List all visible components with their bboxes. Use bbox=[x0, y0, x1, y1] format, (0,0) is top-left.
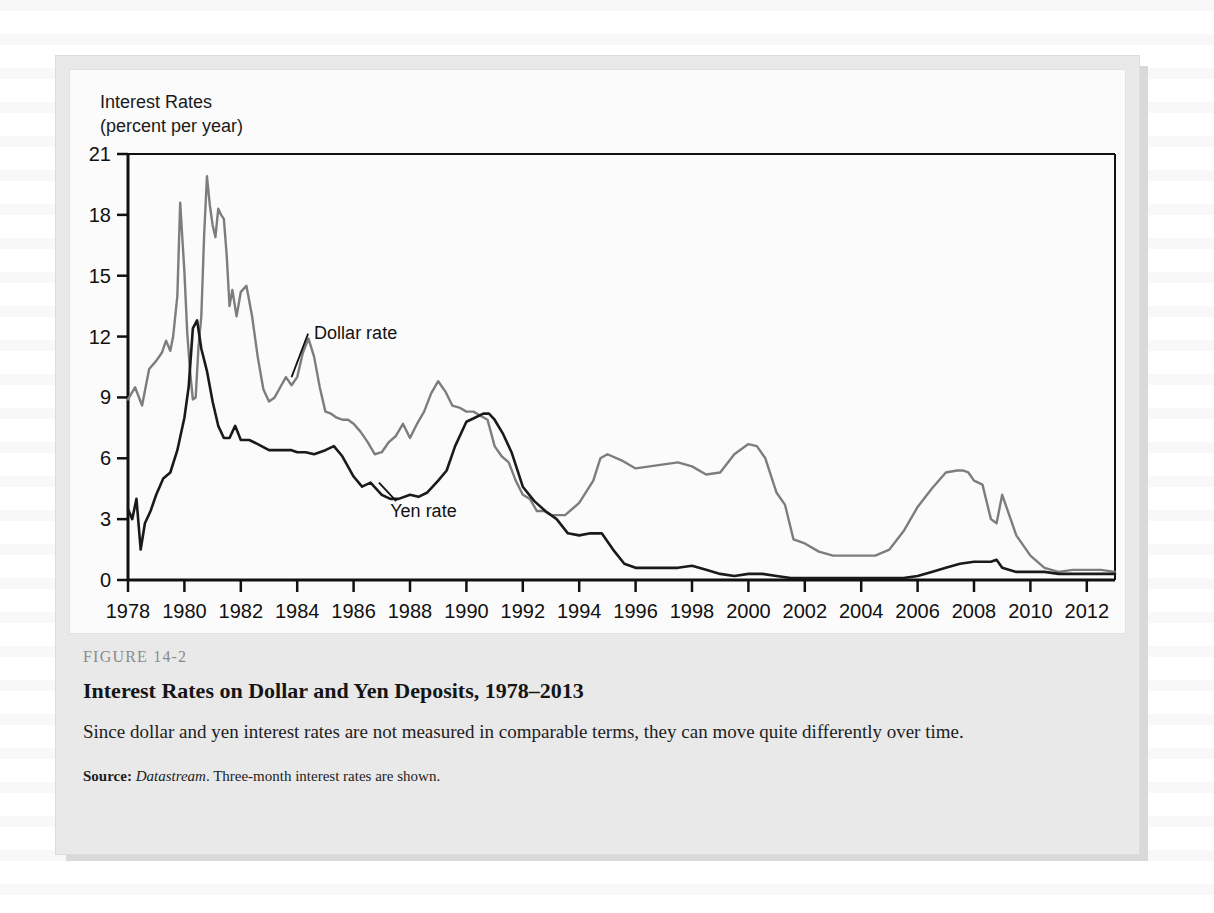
y-tick-label: 9 bbox=[100, 386, 111, 408]
y-tick-label: 3 bbox=[100, 508, 111, 530]
x-tick-label: 1992 bbox=[501, 600, 546, 622]
x-tick-label: 1998 bbox=[670, 600, 715, 622]
x-tick-label: 1978 bbox=[106, 600, 151, 622]
chart-card: Interest Rates(percent per year) 0369121… bbox=[69, 69, 1126, 634]
x-tick-label: 1986 bbox=[331, 600, 376, 622]
x-tick-label: 2012 bbox=[1065, 600, 1110, 622]
line-chart: 0369121518211978198019821984198619881990… bbox=[70, 70, 1127, 635]
y-tick-label: 15 bbox=[89, 265, 111, 287]
x-tick-label: 1982 bbox=[219, 600, 263, 622]
y-tick-label: 12 bbox=[89, 326, 111, 348]
x-tick-label: 2010 bbox=[1008, 600, 1053, 622]
figure-source-prefix: Source: bbox=[83, 768, 132, 784]
figure-description: Since dollar and yen interest rates are … bbox=[83, 718, 1098, 746]
x-tick-label: 1996 bbox=[613, 600, 658, 622]
x-tick-label: 2008 bbox=[952, 600, 997, 622]
figure-source-name: Datastream bbox=[136, 768, 206, 784]
plot-area: 0369121518211978198019821984198619881990… bbox=[70, 70, 1127, 635]
x-tick-label: 1988 bbox=[388, 600, 433, 622]
x-tick-label: 2004 bbox=[839, 600, 884, 622]
x-tick-label: 1980 bbox=[162, 600, 207, 622]
annotation-label-yen-rate: Yen rate bbox=[390, 501, 456, 521]
series-line-yen-rate bbox=[128, 320, 1115, 578]
y-tick-label: 21 bbox=[89, 143, 111, 165]
y-tick-label: 0 bbox=[100, 569, 111, 591]
x-tick-label: 1990 bbox=[444, 600, 489, 622]
annotation-label-dollar-rate: Dollar rate bbox=[314, 323, 397, 343]
figure-source: Source: Datastream. Three-month interest… bbox=[83, 768, 1112, 785]
x-tick-label: 1994 bbox=[557, 600, 602, 622]
figure-source-note: . Three-month interest rates are shown. bbox=[206, 768, 440, 784]
figure-number: FIGURE 14-2 bbox=[83, 648, 1112, 666]
series-line-dollar-rate bbox=[128, 176, 1115, 572]
x-tick-label: 2002 bbox=[783, 600, 828, 622]
figure-title: Interest Rates on Dollar and Yen Deposit… bbox=[83, 678, 1112, 704]
y-tick-label: 18 bbox=[89, 204, 111, 226]
figure-caption: FIGURE 14-2 Interest Rates on Dollar and… bbox=[69, 648, 1126, 785]
x-tick-label: 2006 bbox=[895, 600, 940, 622]
x-tick-label: 1984 bbox=[275, 600, 320, 622]
x-tick-label: 2000 bbox=[726, 600, 771, 622]
figure-panel: Interest Rates(percent per year) 0369121… bbox=[55, 55, 1140, 855]
y-tick-label: 6 bbox=[100, 447, 111, 469]
